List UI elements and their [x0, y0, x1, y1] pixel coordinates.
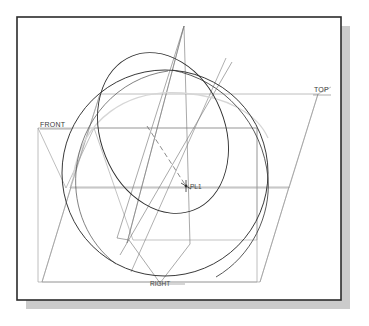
paper-sheet — [17, 17, 341, 300]
drawing-canvas: TOP FRONT RIGHT PL1 — [0, 0, 369, 326]
right-plane-label: RIGHT — [150, 280, 170, 287]
front-plane-label: FRONT — [40, 121, 66, 128]
center-datum-dot — [185, 185, 188, 188]
technical-drawing: TOP FRONT RIGHT PL1 — [0, 0, 369, 326]
center-datum-label: PL1 — [190, 183, 202, 190]
top-plane-label: TOP — [314, 86, 329, 93]
